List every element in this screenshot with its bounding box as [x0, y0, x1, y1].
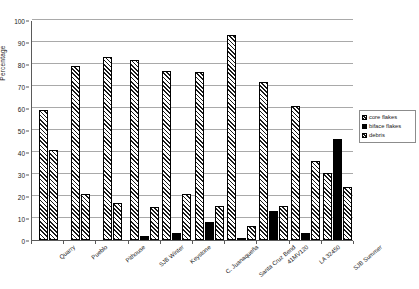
x-axis-tick-label: Keystone [189, 244, 212, 265]
bar [343, 187, 352, 240]
y-axis-tick-label: 80 [18, 62, 25, 69]
y-axis-tick-label: 10 [18, 216, 25, 223]
x-axis-tick-label: LA 32450 [318, 244, 341, 265]
legend-label: core flakes [369, 113, 397, 122]
bar [103, 57, 112, 240]
bar [182, 194, 191, 240]
bar-chart: Percentage 0102030405060708090100 Quarry… [0, 0, 419, 289]
bar-group [290, 21, 322, 240]
bar [162, 71, 171, 240]
plot-area [31, 21, 353, 241]
x-axis-tick-label: SJB Summer [352, 244, 383, 271]
x-axis-tick-label: Pithouse [124, 244, 146, 264]
y-axis-tick-mark [26, 219, 29, 220]
y-axis-tick-label: 100 [14, 18, 25, 25]
bar-group [32, 21, 64, 240]
bar [323, 173, 332, 240]
bar-group [96, 21, 128, 240]
x-axis-tick-label: C. Juanaqueña [225, 244, 260, 275]
bar [279, 206, 288, 240]
bar [311, 161, 320, 240]
y-axis-tick-label: 90 [18, 40, 25, 47]
bar [291, 106, 300, 240]
y-axis-tick-mark [26, 87, 29, 88]
bar-group [257, 21, 289, 240]
bar-group [322, 21, 354, 240]
y-axis-tick-mark [26, 109, 29, 110]
chart-legend: core flakesbiface flakesdebris [359, 110, 416, 143]
legend-label: debris [369, 131, 385, 140]
bar [259, 82, 268, 240]
bar [237, 238, 246, 240]
legend-swatch-icon [362, 133, 367, 138]
x-axis-tick-labels: QuarryPuebloPithouseSJB WinterKeystoneC.… [0, 241, 419, 289]
y-axis-tick-labels: 0102030405060708090100 [0, 21, 29, 241]
y-axis-tick-mark [26, 43, 29, 44]
bar [247, 226, 256, 240]
bar [205, 222, 214, 240]
y-axis-tick-label: 30 [18, 172, 25, 179]
y-axis-tick-mark [26, 21, 29, 22]
legend-swatch-icon [362, 115, 367, 120]
y-axis-tick-label: 60 [18, 106, 25, 113]
y-axis-tick-mark [26, 65, 29, 66]
legend-item: biface flakes [362, 122, 413, 131]
legend-item: core flakes [362, 113, 413, 122]
bar [195, 72, 204, 240]
bar-group [129, 21, 161, 240]
legend-item: debris [362, 131, 413, 140]
bar [49, 150, 58, 240]
bar [81, 194, 90, 240]
bar [150, 207, 159, 240]
bar-group [161, 21, 193, 240]
bar [172, 233, 181, 240]
y-axis-tick-label: 20 [18, 194, 25, 201]
bar [269, 211, 278, 240]
y-axis-tick-label: 40 [18, 150, 25, 157]
y-axis-tick-label: 50 [18, 128, 25, 135]
y-axis-tick-label: 70 [18, 84, 25, 91]
y-axis-tick-mark [26, 131, 29, 132]
bar [113, 203, 122, 240]
x-axis-tick-label: SJB Winter [158, 244, 185, 268]
bar [215, 206, 224, 240]
bar [333, 139, 342, 240]
bar-group [225, 21, 257, 240]
bar [39, 110, 48, 240]
y-axis-tick-mark [26, 197, 29, 198]
bar [140, 236, 149, 240]
bar-group [64, 21, 96, 240]
x-axis-tick-label: Quarry [58, 244, 76, 260]
bar [227, 35, 236, 240]
legend-label: biface flakes [369, 122, 401, 131]
y-axis-tick-mark [26, 153, 29, 154]
gridline [32, 19, 353, 20]
bar [71, 66, 80, 240]
bar [130, 60, 139, 240]
x-axis-tick-label: Pueblo [91, 244, 109, 261]
y-axis-tick-mark [26, 175, 29, 176]
legend-swatch-icon [362, 124, 367, 129]
bars-layer [32, 21, 353, 240]
bar-group [193, 21, 225, 240]
bar [301, 233, 310, 240]
